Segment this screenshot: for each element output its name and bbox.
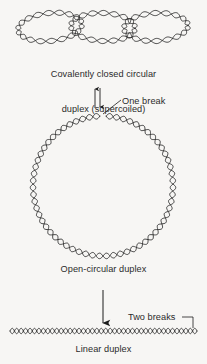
label-two-breaks: Two breaks [128,312,175,324]
caption-linear-duplex: Linear duplex [0,344,207,356]
two-breaks-leader-line [182,317,193,328]
caption-open-circular-duplex: Open-circular duplex [0,264,207,276]
dna-duplex-figure: Covalently closed circular duplex (super… [0,0,207,364]
linear-duplex-shape [10,328,197,333]
caption-supercoiled-line2: duplex (supercoiled) [0,104,207,116]
supercoiled-duplex-shape [16,10,190,44]
caption-supercoiled-duplex: Covalently closed circular duplex (super… [0,46,207,138]
caption-supercoiled-line1: Covalently closed circular [0,69,207,81]
label-one-break: One break [122,96,165,108]
